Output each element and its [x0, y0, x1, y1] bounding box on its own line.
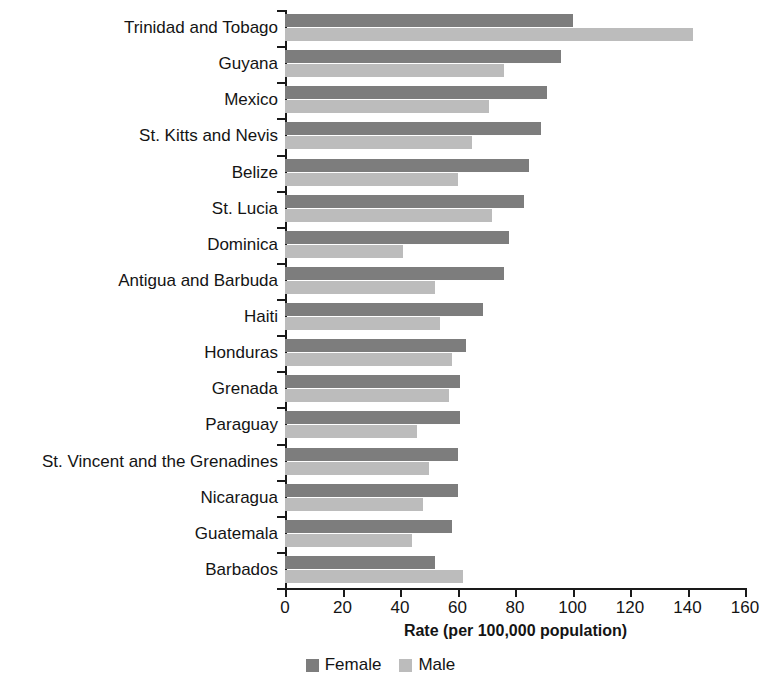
- x-tick: [285, 588, 287, 597]
- bar-male: [285, 245, 403, 258]
- category-label: Guyana: [6, 55, 278, 73]
- bar-male: [285, 209, 492, 222]
- bar-male: [285, 425, 417, 438]
- legend-swatch: [399, 659, 412, 672]
- legend-label: Female: [325, 655, 382, 675]
- y-tick: [277, 46, 286, 48]
- bar-group: [285, 118, 745, 154]
- bar-male: [285, 100, 489, 113]
- plot-area: [285, 10, 745, 588]
- bar-group: [285, 46, 745, 82]
- bar-group: [285, 407, 745, 443]
- x-tick-label: 140: [658, 598, 718, 618]
- category-label: Belize: [6, 164, 278, 182]
- x-tick: [515, 588, 517, 597]
- y-tick: [277, 82, 286, 84]
- legend-swatch: [306, 659, 319, 672]
- bar-group: [285, 191, 745, 227]
- category-label: St. Vincent and the Grenadines: [6, 453, 278, 471]
- x-tick-label: 100: [543, 598, 603, 618]
- category-label: Grenada: [6, 380, 278, 398]
- y-tick: [277, 407, 286, 409]
- bar-male: [285, 570, 463, 583]
- bar-group: [285, 552, 745, 588]
- y-tick: [277, 10, 286, 12]
- bar-female: [285, 267, 504, 280]
- x-tick: [630, 588, 632, 597]
- category-label: Trinidad and Tobago: [6, 19, 278, 37]
- x-tick-label: 0: [255, 598, 315, 618]
- x-tick-label: 20: [313, 598, 373, 618]
- bar-female: [285, 50, 561, 63]
- legend-label: Male: [418, 655, 455, 675]
- bar-female: [285, 86, 547, 99]
- chart-legend: FemaleMale: [0, 655, 761, 675]
- bar-female: [285, 231, 509, 244]
- category-label: Haiti: [6, 308, 278, 326]
- bar-group: [285, 335, 745, 371]
- category-label: Honduras: [6, 344, 278, 362]
- x-tick: [343, 588, 345, 597]
- bar-chart: Trinidad and TobagoGuyanaMexicoSt. Kitts…: [0, 0, 761, 684]
- y-tick: [277, 335, 286, 337]
- legend-entry: Male: [399, 655, 455, 675]
- bar-rows: [285, 10, 745, 588]
- category-label: Mexico: [6, 91, 278, 109]
- bar-group: [285, 444, 745, 480]
- bar-female: [285, 303, 483, 316]
- bar-female: [285, 411, 460, 424]
- bar-male: [285, 136, 472, 149]
- bar-female: [285, 375, 460, 388]
- y-tick: [277, 299, 286, 301]
- x-tick: [400, 588, 402, 597]
- category-label: Barbados: [6, 561, 278, 579]
- x-tick: [688, 588, 690, 597]
- category-label: Guatemala: [6, 525, 278, 543]
- bar-male: [285, 28, 693, 41]
- category-axis-labels: Trinidad and TobagoGuyanaMexicoSt. Kitts…: [0, 10, 278, 588]
- bar-male: [285, 317, 440, 330]
- bar-female: [285, 556, 435, 569]
- x-tick: [745, 588, 747, 597]
- bar-group: [285, 227, 745, 263]
- bar-female: [285, 339, 466, 352]
- category-label: Antigua and Barbuda: [6, 272, 278, 290]
- bar-female: [285, 448, 458, 461]
- bar-group: [285, 263, 745, 299]
- bar-group: [285, 480, 745, 516]
- bar-female: [285, 484, 458, 497]
- bar-female: [285, 122, 541, 135]
- y-tick: [277, 263, 286, 265]
- category-label: St. Lucia: [6, 200, 278, 218]
- y-tick: [277, 371, 286, 373]
- category-label: Paraguay: [6, 416, 278, 434]
- bar-group: [285, 10, 745, 46]
- bar-female: [285, 14, 573, 27]
- category-label: Nicaragua: [6, 489, 278, 507]
- x-tick-label: 160: [715, 598, 761, 618]
- bar-male: [285, 353, 452, 366]
- y-tick: [277, 480, 286, 482]
- bar-group: [285, 155, 745, 191]
- bar-male: [285, 462, 429, 475]
- y-tick: [277, 118, 286, 120]
- y-tick: [277, 191, 286, 193]
- y-tick: [277, 552, 286, 554]
- y-tick: [277, 444, 286, 446]
- bar-male: [285, 498, 423, 511]
- bar-female: [285, 159, 529, 172]
- x-tick: [573, 588, 575, 597]
- legend-entry: Female: [306, 655, 382, 675]
- y-tick: [277, 516, 286, 518]
- x-tick-label: 80: [485, 598, 545, 618]
- bar-male: [285, 534, 412, 547]
- x-tick-label: 120: [600, 598, 660, 618]
- category-label: Dominica: [6, 236, 278, 254]
- bar-female: [285, 195, 524, 208]
- bar-group: [285, 516, 745, 552]
- bar-male: [285, 173, 458, 186]
- bar-group: [285, 371, 745, 407]
- x-tick-label: 40: [370, 598, 430, 618]
- x-tick-label: 60: [428, 598, 488, 618]
- bar-female: [285, 520, 452, 533]
